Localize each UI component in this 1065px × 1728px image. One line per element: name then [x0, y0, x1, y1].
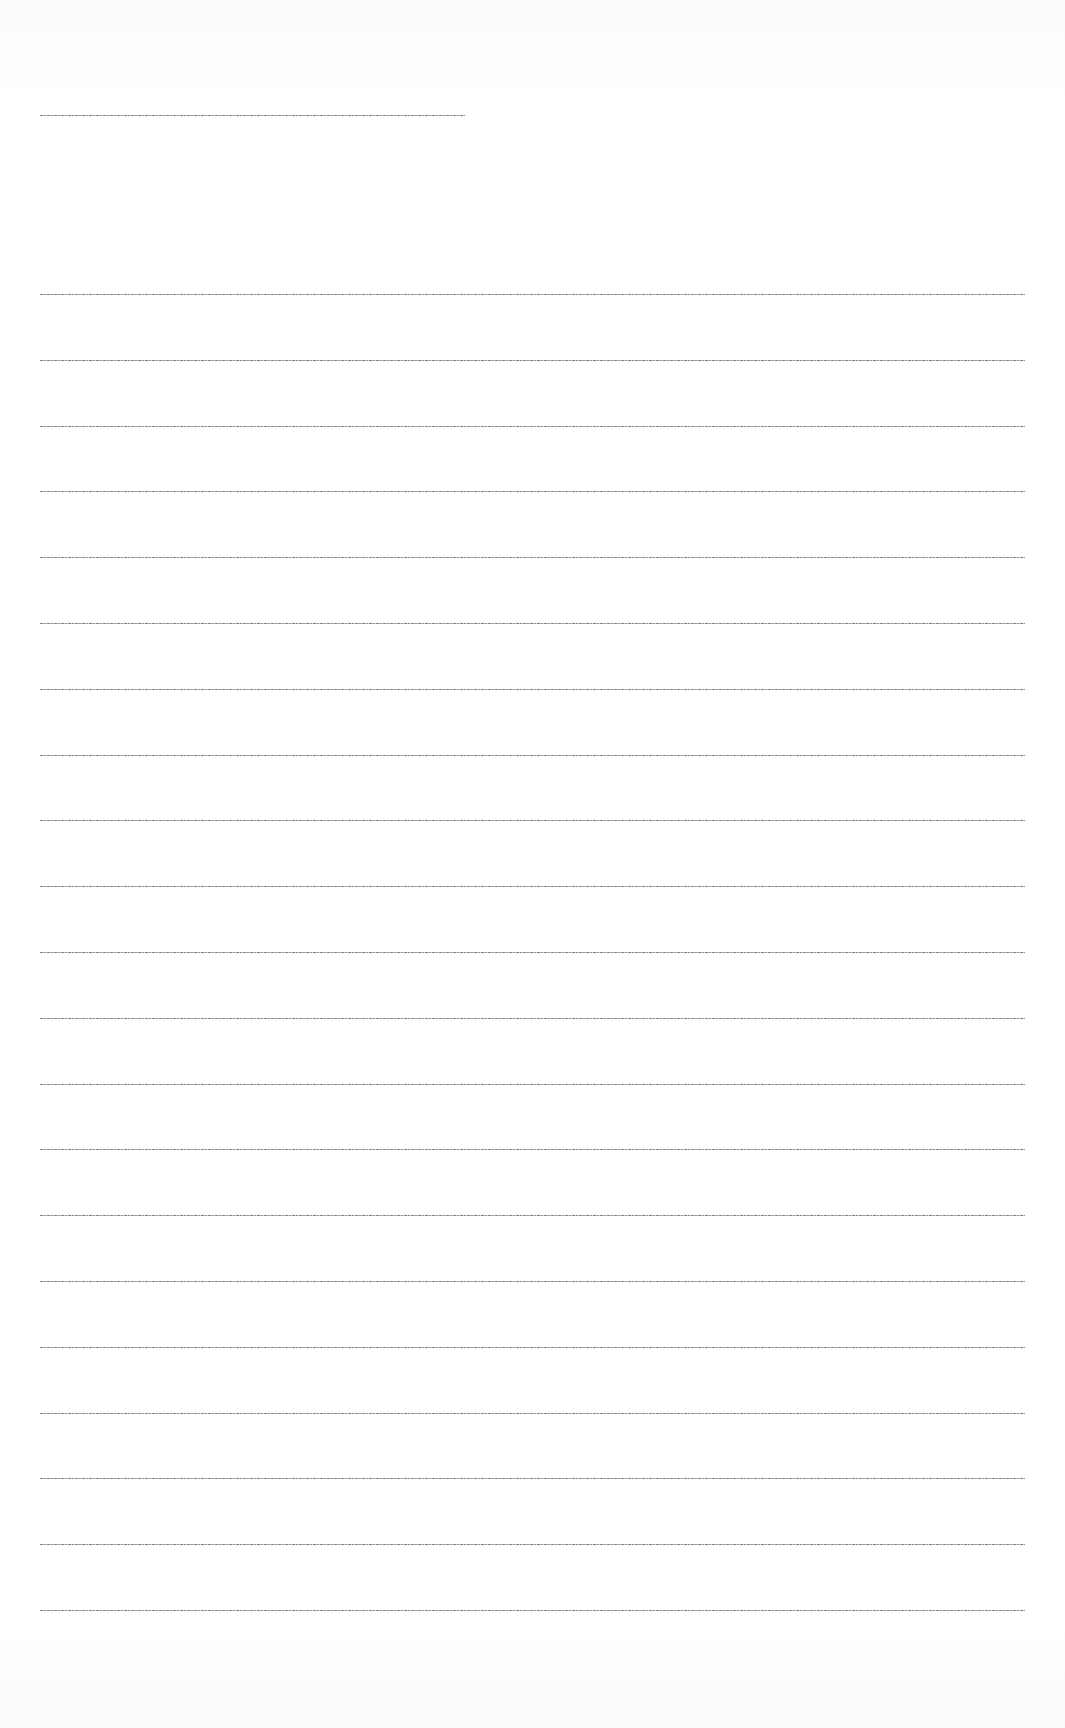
ruled-line	[40, 1347, 1025, 1348]
ruled-line	[40, 755, 1025, 756]
ruled-line	[40, 689, 1025, 690]
ruled-line	[40, 1544, 1025, 1545]
ruled-line	[40, 557, 1025, 558]
ruled-line	[40, 1281, 1025, 1282]
ruled-line	[40, 1610, 1025, 1611]
ruled-line	[40, 491, 1025, 492]
ruled-lines-container	[40, 0, 1025, 1728]
ruled-line	[40, 1215, 1025, 1216]
ruled-line	[40, 426, 1025, 427]
ruled-line	[40, 1018, 1025, 1019]
ruled-line	[40, 1084, 1025, 1085]
ruled-line	[40, 623, 1025, 624]
ruled-line	[40, 886, 1025, 887]
ruled-line	[40, 360, 1025, 361]
ruled-line	[40, 952, 1025, 953]
ruled-line	[40, 1413, 1025, 1414]
ruled-line	[40, 820, 1025, 821]
ruled-line	[40, 294, 1025, 295]
ruled-line	[40, 1149, 1025, 1150]
ruled-line	[40, 1478, 1025, 1479]
ruled-paper-sheet	[0, 0, 1065, 1728]
